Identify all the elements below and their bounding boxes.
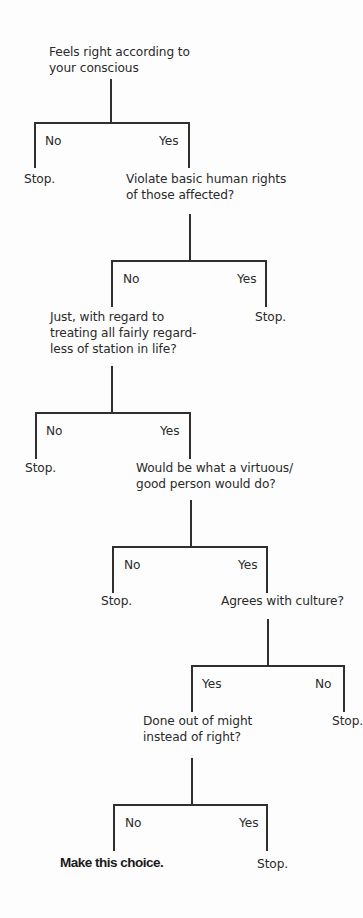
connector-line [188,122,190,168]
connector-line [110,79,112,123]
connector-line [113,804,115,851]
connector-line [189,412,191,459]
connector-line [191,758,193,805]
node-agrees-culture: Agrees with culture? [221,593,344,609]
connector-line [190,500,192,547]
branch-label-no: No [45,134,62,148]
connector-line [111,260,113,307]
node-feels-right: Feels right according to your conscious [49,44,190,76]
node-human-rights: Violate basic human rights of those affe… [126,171,286,203]
branch-label-no: No [125,816,142,830]
node-virtuous-person: Would be what a virtuous/ good person wo… [136,460,293,492]
branch-label-yes: Yes [238,558,258,572]
connector-line [35,412,191,414]
node-just-fairly: Just, with regard to treating all fairly… [50,309,196,357]
branch-label-no: No [123,272,140,286]
final-outcome-make-choice: Make this choice. [60,855,163,871]
branch-label-yes: Yes [160,424,180,438]
connector-line [111,260,267,262]
connector-line [266,804,268,851]
connector-line [343,665,345,712]
branch-label-yes: Yes [239,816,259,830]
branch-label-no: No [46,424,63,438]
outcome-stop: Stop. [257,856,288,872]
outcome-stop: Stop. [25,460,56,476]
connector-line [112,546,268,548]
connector-line [111,366,113,413]
connector-line [265,260,267,307]
branch-label-yes: Yes [237,272,257,286]
outcome-stop: Stop. [332,713,363,729]
node-might-right: Done out of might instead of right? [143,713,252,745]
connector-line [34,122,190,124]
connector-line [112,546,114,593]
connector-line [113,804,268,806]
connector-line [35,412,37,459]
branch-label-yes: Yes [159,134,179,148]
connector-line [34,122,36,168]
connector-line [189,214,191,261]
connector-line [191,665,345,667]
branch-label-no: No [124,558,141,572]
branch-label-no: No [315,677,332,691]
outcome-stop: Stop. [255,309,286,325]
outcome-stop: Stop. [101,593,132,609]
branch-label-yes: Yes [202,677,222,691]
connector-line [267,619,269,666]
connector-line [191,665,193,712]
outcome-stop: Stop. [24,171,55,187]
connector-line [266,546,268,593]
